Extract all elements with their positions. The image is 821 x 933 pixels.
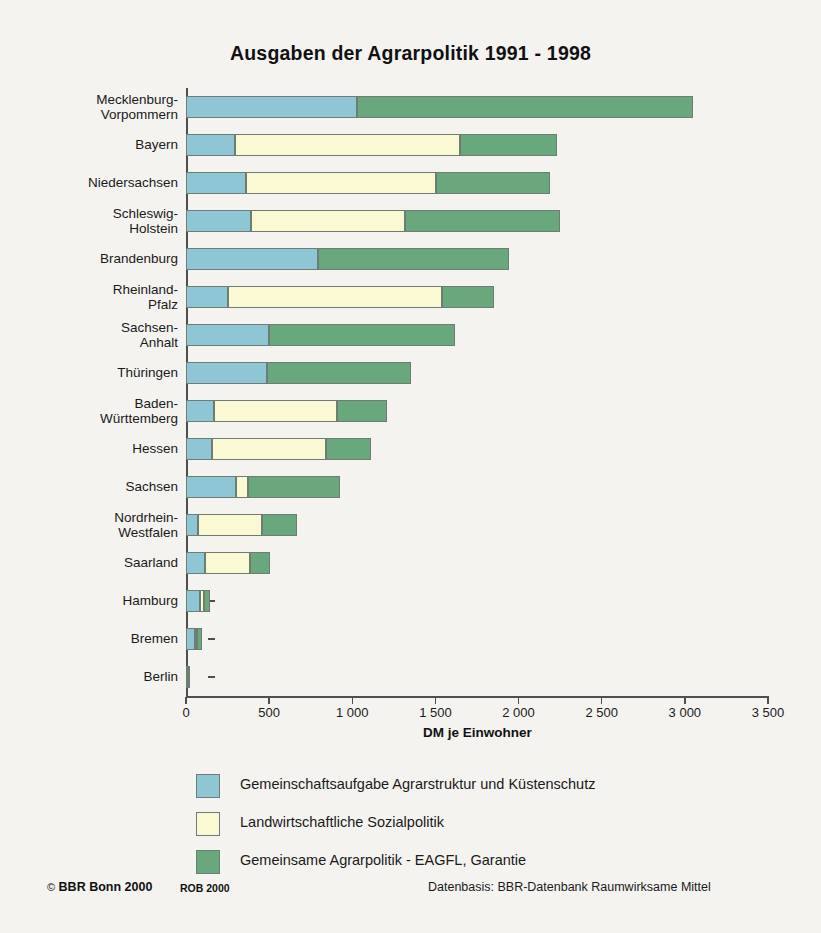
legend-swatch: [196, 850, 220, 874]
page-title: Ausgaben der Agrarpolitik 1991 - 1998: [0, 42, 821, 65]
y-axis-label: Bremen: [32, 631, 178, 647]
x-axis-tick-label: 0: [146, 705, 226, 720]
x-axis-tick: [601, 697, 602, 704]
legend-item: Landwirtschaftliche Sozialpolitik: [196, 810, 756, 848]
copyright-mark: ©: [47, 881, 55, 893]
x-axis-title: DM je Einwohner: [186, 725, 769, 740]
bar-segment: [337, 400, 387, 422]
bar-segment: [186, 96, 357, 118]
x-axis-tick-label: 3 500: [728, 705, 808, 720]
bar-segment: [214, 400, 337, 422]
x-axis-line: [186, 696, 769, 698]
source-note: Datenbasis: BBR-Datenbank Raumwirksame M…: [428, 880, 711, 894]
bar-segment: [248, 476, 340, 498]
legend-label: Gemeinsame Agrarpolitik - EAGFL, Garanti…: [240, 852, 526, 868]
bar-segment: [236, 476, 248, 498]
bar-segment: [186, 514, 198, 536]
x-axis-tick: [767, 697, 768, 704]
bar-segment: [246, 172, 436, 194]
legend-item: Gemeinschaftsaufgabe Agrarstruktur und K…: [196, 772, 756, 810]
y-axis-label: Hamburg: [32, 593, 178, 609]
x-axis-tick: [352, 697, 353, 704]
bar-segment: [186, 248, 318, 270]
bar-segment: [228, 286, 442, 308]
x-axis-tick: [268, 697, 269, 704]
y-axis-label: Thüringen: [32, 365, 178, 381]
y-axis-label: Bayern: [32, 137, 178, 153]
y-axis-label: Sachsen- Anhalt: [32, 320, 178, 351]
bar-segment: [326, 438, 372, 460]
x-axis-tick-label: 1 000: [312, 705, 392, 720]
y-axis-labels: Mecklenburg- VorpommernBayernNiedersachs…: [28, 88, 178, 696]
x-axis-tick-label: 500: [229, 705, 309, 720]
copyright-note: © BBR Bonn 2000: [47, 880, 152, 894]
bar-segment: [186, 172, 246, 194]
bar-segment: [186, 628, 195, 650]
bar-segment: [186, 552, 205, 574]
bar-segment: [186, 210, 251, 232]
bar-segment: [186, 590, 200, 612]
y-axis-label: Niedersachsen: [32, 175, 178, 191]
bar-segment: [251, 210, 405, 232]
x-axis-tick: [518, 697, 519, 704]
bar-segment: [269, 324, 455, 346]
chart-legend: Gemeinschaftsaufgabe Agrarstruktur und K…: [196, 772, 756, 886]
copyright-text: BBR Bonn 2000: [59, 880, 153, 894]
x-axis-tick: [435, 697, 436, 704]
bar-segment: [460, 134, 556, 156]
y-axis-label: Brandenburg: [32, 251, 178, 267]
y-axis-label: Sachsen: [32, 479, 178, 495]
bar-segment: [186, 400, 214, 422]
y-axis-label: Nordrhein- Westfalen: [32, 510, 178, 541]
bar-segment: [235, 134, 460, 156]
bar-segment: [186, 476, 236, 498]
y-axis-label: Mecklenburg- Vorpommern: [32, 92, 178, 123]
y-axis-label: Saarland: [32, 555, 178, 571]
bar-segment: [205, 552, 250, 574]
chart-figure: Ausgaben der Agrarpolitik 1991 - 1998 Me…: [0, 0, 821, 933]
bar-segment: [197, 628, 202, 650]
bar-segment: [198, 514, 262, 536]
bar-segment: [357, 96, 693, 118]
rob-note: ROB 2000: [180, 882, 230, 894]
x-axis-tick: [684, 697, 685, 704]
bar-segment: [250, 552, 270, 574]
bar-segment: [318, 248, 508, 270]
x-axis-tick-label: 2 000: [479, 705, 559, 720]
bar-segment: [405, 210, 560, 232]
x-axis-tick: [185, 697, 186, 704]
legend-swatch: [196, 812, 220, 836]
bar-segment: [186, 286, 228, 308]
y-axis-label: Hessen: [32, 441, 178, 457]
y-axis-label: Schleswig- Holstein: [32, 206, 178, 237]
y-axis-label: Berlin: [32, 669, 178, 685]
legend-label: Landwirtschaftliche Sozialpolitik: [240, 814, 444, 830]
x-axis-tick-label: 2 500: [562, 705, 642, 720]
legend-swatch: [196, 774, 220, 798]
x-axis-tick-label: 1 500: [395, 705, 475, 720]
bar-segment: [204, 590, 210, 612]
bar-segment: [188, 666, 190, 688]
bar-segment: [212, 438, 326, 460]
y-axis-label: Rheinland- Pfalz: [32, 282, 178, 313]
bar-segment: [186, 362, 267, 384]
plot-area: [186, 88, 768, 696]
bar-segment: [262, 514, 298, 536]
bar-segment: [186, 134, 235, 156]
bar-segment: [442, 286, 494, 308]
y-axis-label: Baden- Württemberg: [32, 396, 178, 427]
x-axis-tick-label: 3 000: [645, 705, 725, 720]
bar-segment: [186, 438, 212, 460]
bar-segment: [267, 362, 411, 384]
legend-label: Gemeinschaftsaufgabe Agrarstruktur und K…: [240, 776, 595, 792]
bar-segment: [436, 172, 550, 194]
bar-segment: [186, 324, 269, 346]
